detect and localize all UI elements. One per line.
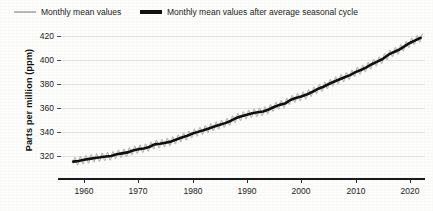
x-tick-label-2000: 2000 [281,187,321,196]
series-seasonally-adjusted-line [73,38,421,162]
x-tick-mark-2020 [410,179,411,183]
x-axis-line [58,178,425,180]
series-monthly-mean-line [73,34,423,165]
x-tick-mark-1970 [138,179,139,183]
x-tick-label-1960: 1960 [64,187,104,196]
x-tick-label-1970: 1970 [118,187,158,196]
x-tick-mark-1980 [193,179,194,183]
x-tick-label-2020: 2020 [390,187,430,196]
x-tick-label-1980: 1980 [173,187,213,196]
x-tick-label-2010: 2010 [336,187,376,196]
keeling-curve-chart: Monthly mean values Monthly mean values … [0,0,433,211]
x-tick-mark-1990 [247,179,248,183]
x-tick-mark-2010 [356,179,357,183]
x-tick-mark-2000 [301,179,302,183]
x-tick-mark-1960 [84,179,85,183]
x-tick-label-1990: 1990 [227,187,267,196]
